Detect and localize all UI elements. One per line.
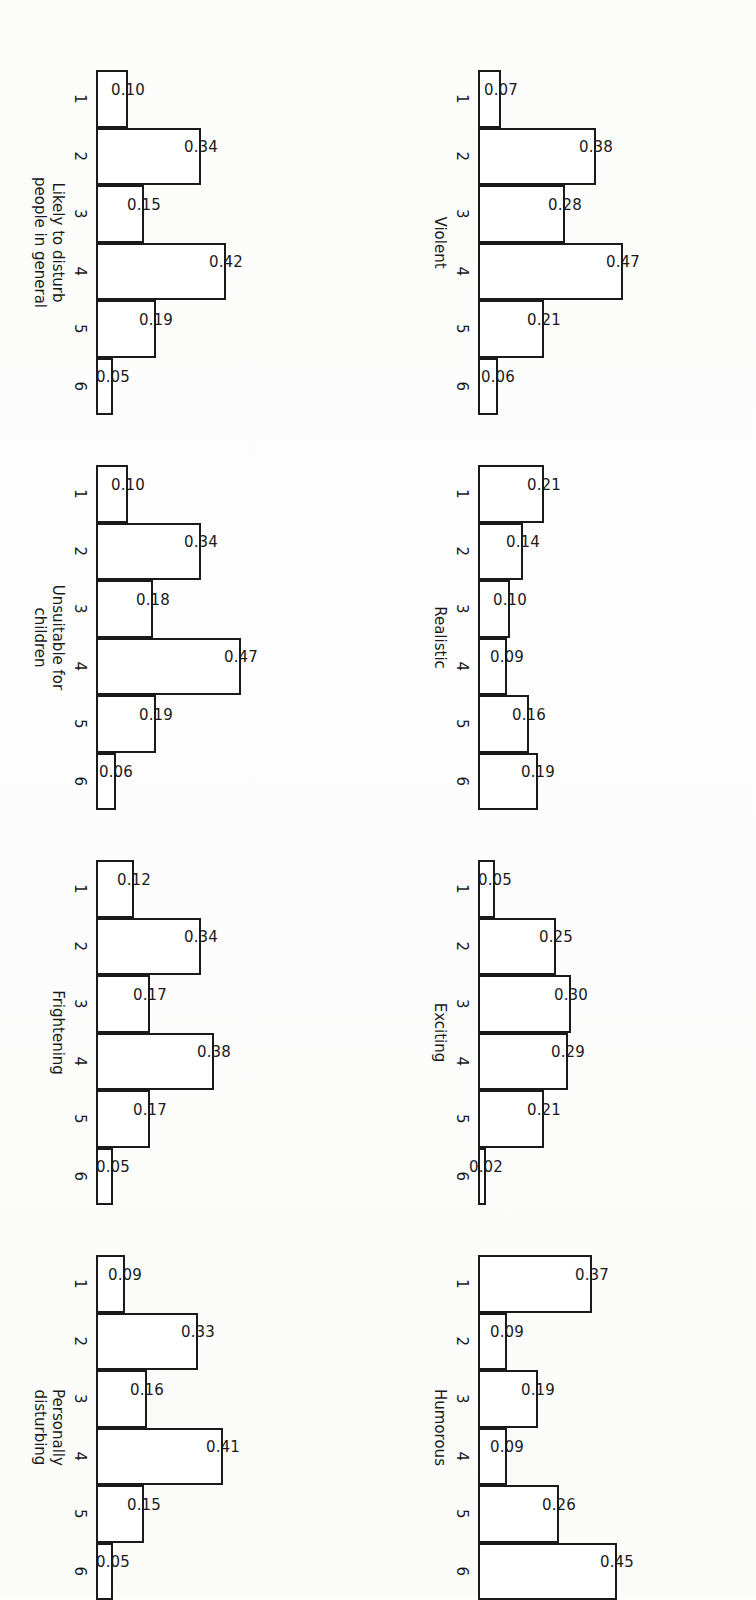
- axis-tick-label: 3: [452, 580, 478, 638]
- bar[interactable]: 0.47: [480, 243, 623, 301]
- bar-slot: 0.10: [98, 70, 250, 128]
- bar-slot: 0.21: [480, 465, 632, 523]
- bar-slot: 0.34: [98, 523, 250, 581]
- bar-value-label: 0.34: [184, 928, 218, 946]
- bar-value-label: 0.10: [493, 591, 527, 609]
- bar[interactable]: 0.25: [480, 918, 556, 976]
- bar[interactable]: 0.15: [98, 185, 144, 243]
- axis-tick-label: 3: [70, 580, 96, 638]
- bar[interactable]: 0.19: [480, 753, 538, 811]
- bar[interactable]: 0.02: [480, 1148, 486, 1206]
- bar[interactable]: 0.12: [98, 860, 134, 918]
- bar-value-label: 0.15: [127, 196, 161, 214]
- panel-humorous: 0.370.090.190.090.260.45123456Humorous: [478, 1255, 668, 1600]
- bar[interactable]: 0.16: [480, 695, 529, 753]
- bar[interactable]: 0.34: [98, 128, 201, 186]
- bar[interactable]: 0.33: [98, 1313, 198, 1371]
- bar-slot: 0.37: [480, 1255, 632, 1313]
- bar[interactable]: 0.28: [480, 185, 565, 243]
- bar[interactable]: 0.10: [480, 580, 510, 638]
- axis-tick-label: 5: [70, 695, 96, 753]
- bar-group: 0.370.090.190.090.260.45: [480, 1255, 632, 1600]
- bar-value-label: 0.17: [133, 1101, 167, 1119]
- axis-tick-label: 6: [452, 1148, 478, 1206]
- bar[interactable]: 0.17: [98, 975, 150, 1033]
- bar-slot: 0.06: [480, 358, 632, 416]
- bar[interactable]: 0.09: [480, 1428, 507, 1486]
- bar-slot: 0.45: [480, 1543, 632, 1600]
- bar[interactable]: 0.09: [98, 1255, 125, 1313]
- bar-group: 0.210.140.100.090.160.19: [480, 465, 632, 810]
- bar[interactable]: 0.21: [480, 465, 544, 523]
- bar[interactable]: 0.41: [98, 1428, 223, 1486]
- panel-title-line: Likely to disturb: [48, 70, 66, 415]
- panel-violent: 0.070.380.280.470.210.06123456Violent: [478, 70, 668, 415]
- panel-title-line: people in general: [31, 70, 49, 415]
- axis-tick-label: 5: [70, 300, 96, 358]
- bar[interactable]: 0.38: [98, 1033, 214, 1091]
- panel-realistic: 0.210.140.100.090.160.19123456Realistic: [478, 465, 668, 810]
- axis-tick-label: 2: [452, 1313, 478, 1371]
- bar[interactable]: 0.14: [480, 523, 523, 581]
- panel-personally-disturbing: 0.090.330.160.410.150.05123456Personally…: [96, 1255, 286, 1600]
- bar[interactable]: 0.34: [98, 918, 201, 976]
- bar-value-label: 0.19: [521, 763, 555, 781]
- bar[interactable]: 0.19: [480, 1370, 538, 1428]
- bar[interactable]: 0.16: [98, 1370, 147, 1428]
- bar[interactable]: 0.18: [98, 580, 153, 638]
- axis-tick-label: 4: [452, 243, 478, 301]
- bar[interactable]: 0.09: [480, 638, 507, 696]
- bar[interactable]: 0.05: [98, 1148, 113, 1206]
- bar[interactable]: 0.17: [98, 1090, 150, 1148]
- bar[interactable]: 0.07: [480, 70, 501, 128]
- bar[interactable]: 0.21: [480, 300, 544, 358]
- bar-value-label: 0.30: [554, 986, 588, 1004]
- bar-value-label: 0.06: [99, 763, 133, 781]
- bar[interactable]: 0.10: [98, 70, 128, 128]
- bar[interactable]: 0.47: [98, 638, 241, 696]
- panel-title-line: children: [31, 465, 49, 810]
- panel-title: Humorous: [430, 1255, 448, 1600]
- bar[interactable]: 0.29: [480, 1033, 568, 1091]
- bar[interactable]: 0.06: [98, 753, 116, 811]
- bar[interactable]: 0.26: [480, 1485, 559, 1543]
- axis-tick-label: 4: [70, 243, 96, 301]
- axis-baseline: [96, 70, 98, 415]
- panel-title: Unsuitable forchildren: [31, 465, 66, 810]
- bar[interactable]: 0.05: [98, 1543, 113, 1600]
- axis-tick-label: 2: [452, 523, 478, 581]
- bar[interactable]: 0.34: [98, 523, 201, 581]
- bar[interactable]: 0.10: [98, 465, 128, 523]
- axis-tick-label: 1: [70, 70, 96, 128]
- bar[interactable]: 0.19: [98, 300, 156, 358]
- bar[interactable]: 0.06: [480, 358, 498, 416]
- bar-slot: 0.47: [98, 638, 250, 696]
- bar[interactable]: 0.09: [480, 1313, 507, 1371]
- axis-baseline: [478, 1255, 480, 1600]
- bar-value-label: 0.45: [600, 1553, 634, 1571]
- bar-value-label: 0.05: [96, 1553, 130, 1571]
- bar[interactable]: 0.15: [98, 1485, 144, 1543]
- bar[interactable]: 0.37: [480, 1255, 592, 1313]
- bar[interactable]: 0.21: [480, 1090, 544, 1148]
- bar-value-label: 0.19: [139, 706, 173, 724]
- bar[interactable]: 0.30: [480, 975, 571, 1033]
- bar-value-label: 0.09: [490, 1323, 524, 1341]
- bar[interactable]: 0.45: [480, 1543, 617, 1600]
- axis-tick-label: 2: [70, 1313, 96, 1371]
- axis-tick-label: 1: [70, 860, 96, 918]
- bar-value-label: 0.07: [484, 81, 518, 99]
- axis-tick-label: 6: [452, 753, 478, 811]
- bar-value-label: 0.38: [579, 138, 613, 156]
- axis-tick-label: 2: [70, 918, 96, 976]
- bar[interactable]: 0.05: [98, 358, 113, 416]
- axis-tick-label: 4: [70, 1428, 96, 1486]
- bar-value-label: 0.26: [542, 1496, 576, 1514]
- bar-value-label: 0.21: [527, 1101, 561, 1119]
- panel-title-line: disturbing: [31, 1255, 49, 1600]
- bar[interactable]: 0.38: [480, 128, 596, 186]
- bar[interactable]: 0.05: [480, 860, 495, 918]
- bar[interactable]: 0.42: [98, 243, 226, 301]
- bar[interactable]: 0.19: [98, 695, 156, 753]
